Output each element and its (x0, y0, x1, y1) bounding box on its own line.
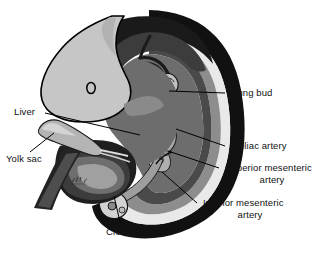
label-liver: Liver (14, 106, 35, 118)
label-inferior-mesenteric-line1: Inferior mesenteric (203, 197, 297, 209)
label-superior-mesenteric-artery: Superior mesenteric artery (225, 162, 319, 185)
label-yolk-sac: Yolk sac (6, 153, 42, 165)
label-lung-bud: Lung bud (232, 87, 272, 99)
label-superior-mesenteric-line2: artery (225, 174, 319, 186)
label-cloaca: Cloaca (106, 226, 136, 238)
label-inferior-mesenteric-artery: Inferior mesenteric artery (203, 197, 297, 220)
label-celiac-artery: Celiac artery (232, 140, 287, 152)
label-superior-mesenteric-line1: Superior mesenteric (225, 162, 319, 174)
label-inferior-mesenteric-line2: artery (203, 209, 297, 221)
embryo-diagram-figure: Lung bud Celiac artery Superior mesenter… (0, 0, 322, 253)
embryonic-head (41, 16, 131, 122)
